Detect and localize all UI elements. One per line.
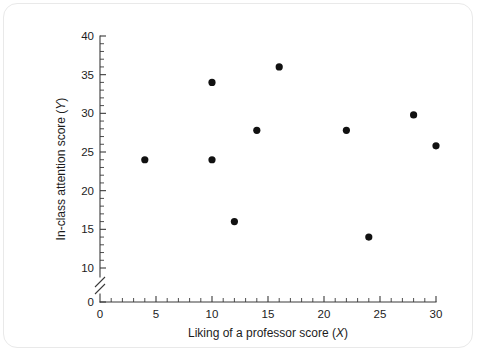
data-point (365, 233, 372, 240)
x-axis: 051015202530 (97, 296, 443, 320)
x-axis-tick-label: 15 (262, 308, 275, 320)
scatter-plot-canvas: 010152025303540051015202530Liking of a p… (0, 0, 479, 354)
x-axis-tick-label: 20 (318, 308, 331, 320)
y-axis-tick-label: 15 (81, 223, 94, 235)
data-point (231, 218, 238, 225)
x-axis-tick-label: 25 (374, 308, 387, 320)
y-axis-tick-label: 30 (81, 107, 94, 119)
data-point (253, 127, 260, 134)
x-axis-tick-label: 10 (206, 308, 219, 320)
data-point (410, 111, 417, 118)
data-point (208, 156, 215, 163)
y-axis-tick-label: 0 (88, 296, 94, 308)
data-point (343, 127, 350, 134)
data-point (141, 156, 148, 163)
x-axis-major-ticks: 051015202530 (97, 296, 443, 320)
x-axis-tick-label: 0 (97, 308, 103, 320)
data-point (432, 142, 439, 149)
x-axis-tick-label: 30 (430, 308, 443, 320)
x-axis-tick-label: 5 (153, 308, 159, 320)
y-axis-major-ticks: 010152025303540 (81, 30, 106, 308)
y-axis-tick-label: 20 (81, 185, 94, 197)
y-axis-tick-label: 25 (81, 146, 94, 158)
y-axis-tick-label: 35 (81, 69, 94, 81)
y-axis-break-mark (95, 277, 105, 294)
y-axis-title: In-class attention score (Y) (54, 98, 68, 241)
y-axis-tick-label: 10 (81, 262, 94, 274)
data-point-series (141, 63, 439, 240)
x-axis-title: Liking of a professor score (X) (188, 326, 348, 340)
scatter-plot-figure: 010152025303540051015202530Liking of a p… (0, 0, 479, 354)
data-point (276, 63, 283, 70)
y-axis: 010152025303540 (81, 30, 106, 308)
y-axis-tick-label: 40 (81, 30, 94, 42)
data-point (208, 79, 215, 86)
